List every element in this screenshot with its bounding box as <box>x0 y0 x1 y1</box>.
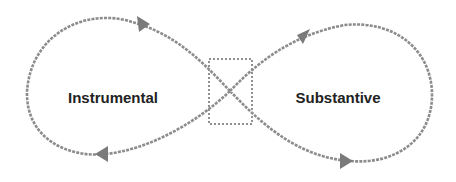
arrowhead-left-top-icon <box>137 16 150 32</box>
arrowhead-right-bottom-icon <box>340 153 353 169</box>
left-loop-curve <box>27 18 230 155</box>
arrowhead-left-bottom-icon <box>95 146 108 162</box>
arrowhead-right-top-icon <box>297 29 310 44</box>
figure-eight-diagram: Instrumental Substantive <box>0 0 456 182</box>
label-instrumental: Instrumental <box>68 89 158 106</box>
label-substantive: Substantive <box>295 89 380 106</box>
